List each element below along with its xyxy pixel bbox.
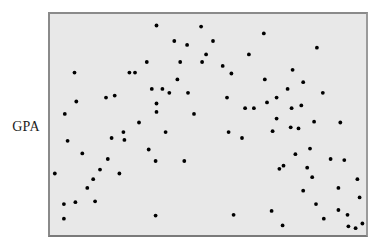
- data-point: [247, 53, 251, 57]
- data-point: [243, 106, 247, 110]
- data-point: [230, 72, 234, 76]
- data-point: [275, 96, 279, 100]
- data-point: [192, 112, 196, 116]
- data-point: [240, 136, 244, 140]
- data-point: [123, 138, 127, 142]
- data-point: [74, 200, 78, 204]
- data-point: [137, 121, 141, 125]
- data-point: [278, 167, 282, 171]
- data-point: [161, 87, 165, 91]
- data-point: [263, 78, 267, 82]
- data-point: [182, 159, 186, 163]
- data-point: [361, 222, 365, 226]
- data-point: [73, 71, 77, 75]
- data-point: [106, 157, 110, 161]
- data-point: [262, 32, 266, 36]
- data-point: [270, 209, 274, 213]
- data-point: [185, 43, 189, 47]
- data-point: [204, 53, 208, 57]
- data-point: [85, 186, 89, 190]
- data-point: [154, 159, 158, 163]
- data-point: [154, 214, 158, 218]
- data-point: [315, 46, 319, 50]
- data-point: [291, 68, 295, 72]
- data-point: [281, 224, 285, 228]
- data-point: [186, 91, 190, 95]
- data-point: [338, 121, 342, 125]
- data-point: [53, 172, 57, 176]
- data-point: [301, 189, 305, 193]
- data-point: [227, 130, 231, 134]
- data-point: [321, 91, 325, 95]
- data-point: [329, 157, 333, 161]
- data-point: [286, 87, 290, 91]
- data-point: [110, 136, 114, 140]
- data-point: [176, 78, 180, 82]
- data-point: [200, 60, 204, 64]
- data-point: [155, 110, 159, 114]
- data-point: [354, 226, 358, 230]
- data-point: [289, 125, 293, 129]
- data-point: [356, 177, 360, 181]
- data-point: [347, 224, 351, 228]
- data-point: [314, 202, 318, 206]
- data-point: [150, 87, 154, 91]
- plot-area: [48, 12, 368, 237]
- data-point: [118, 172, 122, 176]
- chart-container: GPA: [0, 0, 388, 252]
- data-point: [211, 39, 215, 43]
- scatter-points: [50, 14, 366, 235]
- data-point: [312, 120, 316, 124]
- data-point: [337, 208, 341, 212]
- data-point: [297, 127, 301, 131]
- data-point: [265, 101, 269, 105]
- data-point: [358, 196, 362, 200]
- data-point: [225, 96, 229, 100]
- data-point: [128, 71, 132, 75]
- data-point: [66, 139, 70, 143]
- data-point: [104, 96, 108, 100]
- data-point: [98, 168, 102, 172]
- data-point: [122, 130, 126, 134]
- data-point: [93, 199, 97, 203]
- data-point: [133, 71, 137, 75]
- data-point: [80, 152, 84, 156]
- y-axis-label: GPA: [8, 119, 44, 135]
- data-point: [342, 158, 346, 162]
- data-point: [178, 60, 182, 64]
- data-point: [271, 129, 275, 133]
- data-point: [337, 186, 341, 190]
- data-point: [282, 164, 286, 168]
- data-point: [232, 213, 236, 217]
- data-point: [74, 100, 78, 104]
- data-point: [310, 175, 314, 179]
- data-point: [290, 106, 294, 110]
- data-point: [308, 147, 312, 151]
- data-point: [294, 152, 298, 156]
- data-point: [155, 102, 159, 106]
- data-point: [167, 91, 171, 95]
- data-point: [252, 106, 256, 110]
- data-point: [172, 39, 176, 43]
- data-point: [63, 112, 67, 116]
- data-point: [305, 166, 309, 170]
- data-point: [91, 177, 95, 181]
- data-point: [147, 148, 151, 152]
- data-point: [221, 64, 225, 68]
- data-point: [145, 60, 149, 64]
- data-point: [199, 25, 203, 29]
- data-point: [301, 80, 305, 84]
- data-point: [275, 117, 279, 121]
- data-point: [62, 217, 66, 221]
- data-point: [113, 94, 117, 98]
- data-point: [322, 217, 326, 221]
- data-point: [155, 24, 159, 28]
- data-point: [62, 202, 66, 206]
- data-point: [299, 104, 303, 108]
- data-point: [346, 213, 350, 217]
- data-point: [164, 130, 168, 134]
